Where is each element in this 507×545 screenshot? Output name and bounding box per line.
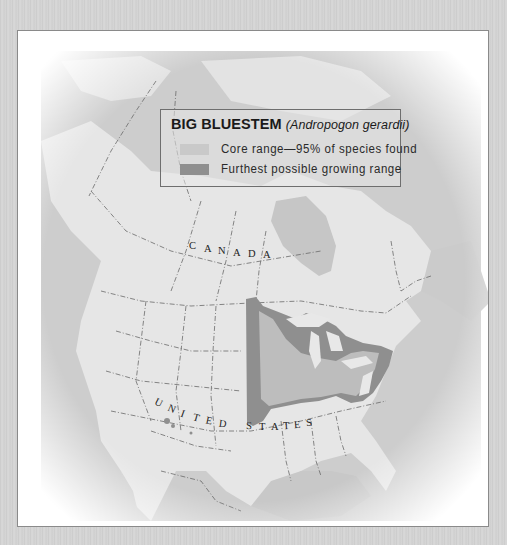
us-label-letter: D <box>218 418 227 430</box>
legend-common-name: BIG BLUESTEM <box>171 116 282 132</box>
us-label-letter: S <box>246 420 252 431</box>
us-label-letter: E <box>294 419 301 431</box>
legend-scientific-name: (Andropogon gerardii) <box>286 118 410 132</box>
canada-label-letter: N <box>218 245 226 256</box>
canada-label-letter: C <box>189 240 196 251</box>
canada-label-letter: A <box>233 247 241 258</box>
legend-label: Core range—95% of species found <box>221 142 417 156</box>
furthest-range-swatch <box>180 164 209 175</box>
north-america-map <box>17 30 489 527</box>
legend-item-core-range: Core range—95% of species found <box>180 143 434 155</box>
vignette <box>18 31 489 527</box>
us-label-letter: T <box>283 420 290 431</box>
legend-title: BIG BLUESTEM(Andropogon gerardii) <box>171 116 409 132</box>
legend-label: Furthest possible growing range <box>221 162 402 176</box>
canada-label-letter: A <box>204 243 212 254</box>
us-label-letter: T <box>259 421 265 432</box>
canada-label-letter: A <box>263 249 271 260</box>
legend: BIG BLUESTEM(Andropogon gerardii) Core r… <box>160 109 401 187</box>
canada-label-letter: D <box>248 248 256 259</box>
map-frame: BIG BLUESTEM(Andropogon gerardii) Core r… <box>17 30 489 527</box>
legend-item-furthest-range: Furthest possible growing range <box>180 163 417 175</box>
core-range-swatch <box>180 144 209 155</box>
us-label-letter: A <box>271 421 279 432</box>
us-label-letter: S <box>305 417 312 429</box>
